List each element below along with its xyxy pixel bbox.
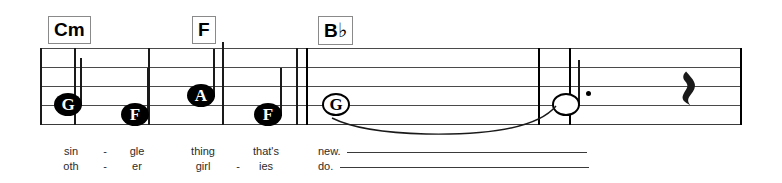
notehead-letter: G: [54, 93, 82, 116]
lyric-v1-5: new.: [318, 146, 341, 157]
notehead-letter: F: [121, 103, 149, 126]
lyric-v2-2: er: [132, 161, 142, 172]
note-g-1[interactable]: G: [54, 93, 94, 117]
lyric-v1-hyphen-1: -: [103, 146, 107, 157]
note-a-1[interactable]: A: [187, 84, 227, 108]
chord-label: Cm: [54, 19, 85, 40]
note-f-2[interactable]: F: [254, 103, 294, 127]
lyric-v2-hyphen-2: -: [236, 161, 240, 172]
barline-beat-4: [296, 48, 298, 125]
chord-symbol-cm[interactable]: Cm: [48, 16, 91, 44]
flat-accidental-icon: ♭: [338, 19, 347, 41]
lyric-v1-3: thing: [191, 146, 215, 157]
lyric-extender-v1: [347, 152, 587, 153]
lyric-v1-1: sin: [64, 146, 78, 157]
quarter-rest-icon: [676, 62, 700, 110]
staff-line-3: [40, 86, 742, 87]
staff-line-1: [40, 48, 742, 49]
lyric-v2-4: ies: [259, 161, 273, 172]
augmentation-dot-icon: [586, 91, 591, 96]
chord-symbol-f[interactable]: F: [192, 16, 216, 44]
lyric-v2-1: oth: [63, 161, 78, 172]
music-staff-sheet: Cm F B♭ G F A F G sin - gle thing: [0, 0, 782, 183]
notehead-letter: A: [187, 84, 215, 107]
lyric-v2-hyphen-1: -: [103, 161, 107, 172]
chord-symbol-bflat[interactable]: B♭: [318, 16, 353, 45]
lyric-v2-5: do.: [318, 161, 333, 172]
notehead-letter: F: [254, 103, 282, 126]
note-f-1[interactable]: F: [121, 103, 161, 127]
chord-label: B: [324, 20, 338, 41]
tie-slur-icon: [330, 104, 570, 138]
lyric-v1-4: that's: [253, 146, 279, 157]
lyric-extender-v2: [340, 167, 589, 168]
lyric-v1-2: gle: [130, 146, 145, 157]
barline-start: [40, 48, 42, 125]
lyric-v2-3: girl: [196, 161, 211, 172]
barline-end: [740, 48, 742, 125]
chord-label: F: [198, 19, 210, 40]
barline-measure-2: [306, 48, 308, 125]
staff-line-2: [40, 67, 742, 68]
